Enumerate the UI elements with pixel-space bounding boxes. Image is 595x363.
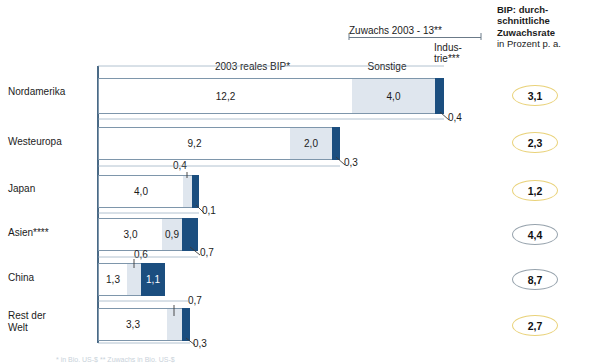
growth-badge-nordamerika: 3,1	[512, 85, 558, 106]
bar-industrie-asien	[182, 218, 198, 251]
bar-value-industrie-china: 1,1	[142, 264, 164, 295]
row-label-asien: Asien****	[8, 227, 92, 239]
growth-bracket-label: Zuwachs 2003 - 13**	[349, 25, 481, 38]
bar-bip-china: 1,3	[98, 263, 127, 296]
callout-industrie-japan: 0,1	[202, 205, 216, 216]
row-label-rest-der-welt-line-2: Welt	[8, 322, 28, 333]
bar-industrie-china: 1,1	[141, 263, 165, 296]
bar-sonstige-westeuropa: 2,0	[290, 127, 332, 160]
bar-value-bip-nordamerika: 12,2	[99, 79, 352, 113]
chart-title-block: BIP: durch- schnittliche Zuwachsrate in …	[497, 4, 593, 50]
chart-title-line-2: schnittliche	[497, 15, 593, 26]
chart-canvas: BIP: durch- schnittliche Zuwachsrate in …	[0, 0, 595, 363]
chart-title-line-3: Zuwachsrate	[497, 27, 593, 38]
bar-bip-asien: 3,0	[98, 218, 162, 251]
row-label-japan: Japan	[8, 183, 92, 195]
row-label-rest-der-welt: Rest der Welt	[8, 310, 92, 333]
column-header-bip: 2003 reales BIP*	[170, 61, 335, 72]
bar-value-bip-japan: 4,0	[99, 176, 183, 207]
bar-bip-nordamerika: 12,2	[98, 78, 352, 114]
callout-sonstige-japan: 0,4	[173, 160, 187, 171]
callout-industrie-nordamerika: 0,4	[448, 112, 462, 123]
callout-sonstige-china: 0,6	[134, 249, 148, 260]
bar-value-bip-rest-der-welt: 3,3	[99, 309, 167, 340]
column-header-industrie: Indus- trie***	[434, 42, 472, 64]
growth-badge-japan: 1,2	[512, 180, 558, 201]
bar-value-sonstige-nordamerika: 4,0	[352, 79, 435, 113]
bar-industrie-rest-der-welt	[182, 308, 190, 341]
callout-industrie-westeuropa: 0,3	[344, 157, 358, 168]
row-label-rest-der-welt-line-1: Rest der	[8, 310, 46, 321]
leader-lines-overlay	[0, 0, 595, 363]
bar-sonstige-china	[127, 263, 141, 296]
bar-value-sonstige-westeuropa: 2,0	[290, 128, 332, 159]
bar-industrie-japan	[192, 175, 199, 208]
chart-footnote: * in Bio. US-$ ** Zuwachs in Bio. US-$	[56, 356, 175, 363]
row-label-nordamerika: Nordamerika	[8, 86, 92, 98]
row-label-china: China	[8, 272, 92, 284]
growth-badge-rest-der-welt: 2,7	[512, 315, 558, 336]
bar-industrie-nordamerika	[435, 78, 444, 114]
column-header-industrie-line-1: Indus-	[434, 42, 462, 53]
bar-value-bip-westeuropa: 9,2	[99, 128, 290, 159]
bar-bip-japan: 4,0	[98, 175, 183, 208]
callout-industrie-asien: 0,7	[200, 247, 214, 258]
chart-title-line-1: BIP: durch-	[497, 4, 593, 15]
bar-bip-rest-der-welt: 3,3	[98, 308, 167, 341]
column-header-industrie-line-2: trie***	[434, 53, 460, 64]
growth-badge-china: 8,7	[512, 269, 558, 290]
bar-sonstige-nordamerika: 4,0	[352, 78, 435, 114]
row-label-westeuropa: Westeuropa	[8, 136, 92, 148]
column-header-sonstige: Sonstige	[352, 61, 422, 72]
callout-sonstige-rest-der-welt: 0,7	[188, 295, 202, 306]
bar-sonstige-asien: 0,9	[162, 218, 182, 251]
bar-bip-westeuropa: 9,2	[98, 127, 290, 160]
bar-value-bip-china: 1,3	[99, 264, 127, 295]
growth-badge-asien: 4,4	[512, 224, 558, 245]
chart-subtitle: in Prozent p. a.	[497, 38, 593, 49]
callout-industrie-rest-der-welt: 0,3	[193, 338, 207, 349]
bar-sonstige-japan	[183, 175, 192, 208]
bar-value-sonstige-asien: 0,9	[162, 219, 182, 250]
bar-value-bip-asien: 3,0	[99, 219, 162, 250]
bar-sonstige-rest-der-welt	[167, 308, 182, 341]
growth-badge-westeuropa: 2,3	[512, 132, 558, 153]
bar-industrie-westeuropa	[332, 127, 340, 160]
